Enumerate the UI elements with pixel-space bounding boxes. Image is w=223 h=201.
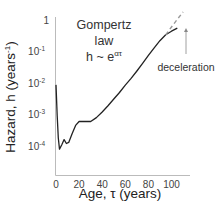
gompertz-label-line1: Gompertz (77, 18, 132, 32)
hazard-chart: 110-110-210-310-4 020406080100 Gompertz … (0, 0, 223, 201)
x-tick-label: 100 (163, 179, 180, 190)
y-axis-title: Hazard, h (years-1) (3, 41, 18, 152)
y-tick-label: 10-3 (28, 108, 45, 120)
y-tick-label: 10-2 (28, 77, 45, 89)
y-tick-labels: 110-110-210-310-4 (28, 15, 49, 152)
y-tick-label: 10-4 (28, 140, 45, 152)
deceleration-label: deceleration (157, 61, 214, 73)
series-group (56, 12, 183, 149)
x-axis-title: Age, τ (years) (79, 186, 162, 201)
hazard-curve-line (56, 28, 177, 149)
y-axis-title-main: Hazard, h (years (3, 53, 18, 153)
gompertz-formula: h ~ eατ (86, 49, 123, 64)
y-axis-title-close: ) (3, 41, 18, 46)
x-tick-label: 0 (53, 179, 59, 190)
gompertz-extrapolation-line (166, 12, 183, 35)
y-tick-label: 10-1 (28, 45, 45, 57)
formula-base: h ~ e (86, 50, 114, 64)
formula-exponent: ατ (114, 49, 123, 58)
y-tick-label: 1 (43, 15, 49, 26)
deceleration-arrowhead-icon (184, 28, 188, 32)
gompertz-label-line2: law (95, 34, 115, 48)
